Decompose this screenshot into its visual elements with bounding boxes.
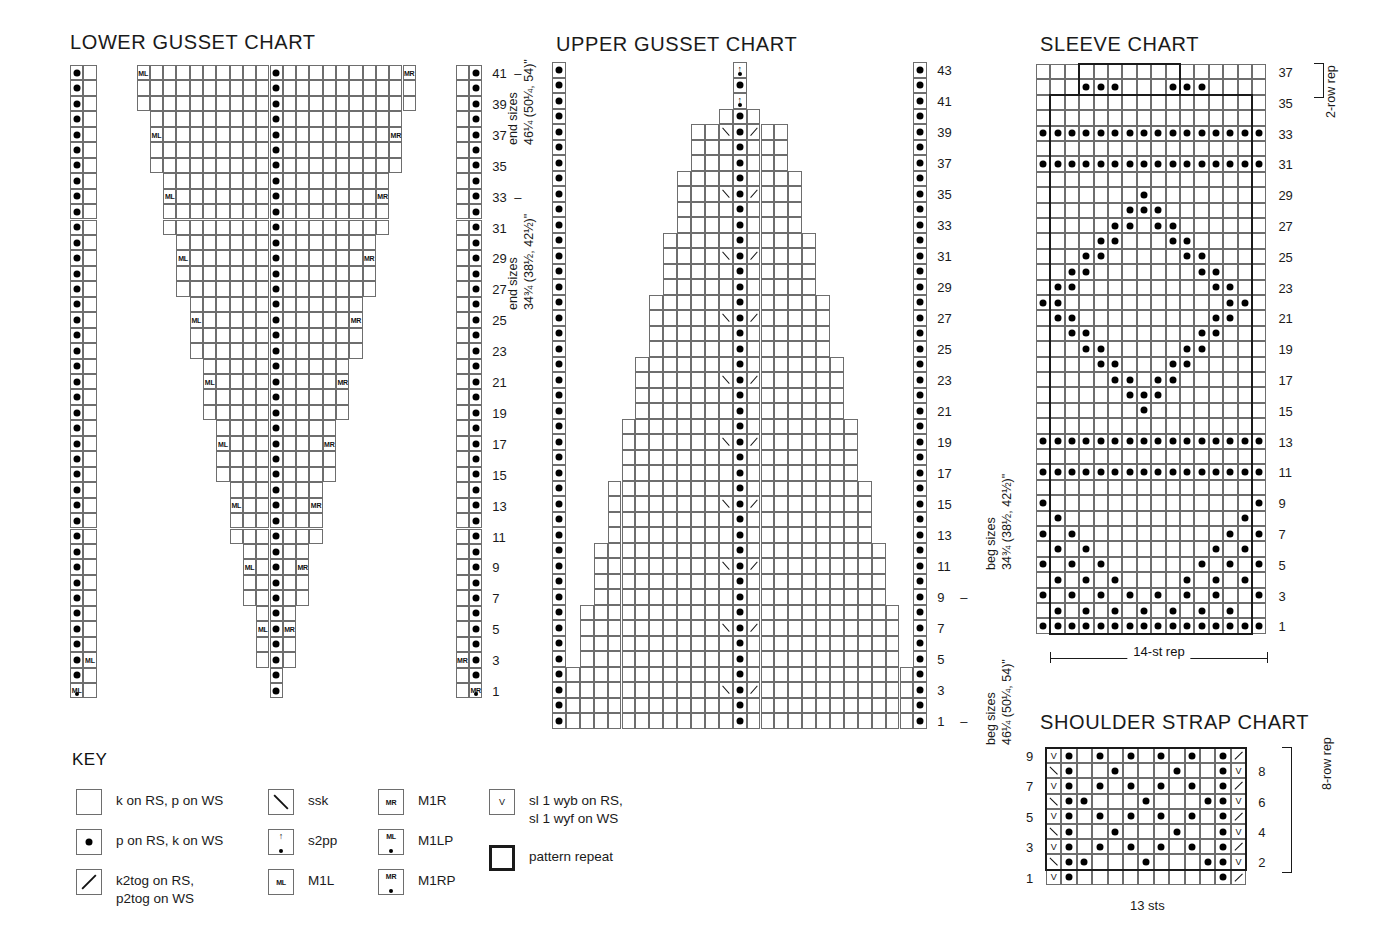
sleeve-cell — [1209, 264, 1223, 279]
s2pp-symbol: ↑ — [279, 832, 284, 841]
purl-dot-icon — [917, 500, 924, 507]
lower-gusset-cell — [296, 96, 309, 111]
upper-gusset-cell — [761, 620, 775, 636]
shoulder-strap-cell — [1215, 839, 1230, 854]
sleeve-cell — [1079, 264, 1093, 279]
upper-gusset-cell — [774, 264, 788, 280]
lower-gusset-cell — [203, 173, 216, 188]
upper-gusset-cell — [733, 450, 747, 466]
lower-gusset-cell — [70, 127, 83, 142]
purl-dot-icon — [1097, 130, 1104, 137]
sleeve-cell — [1108, 126, 1122, 141]
sleeve-cell — [1065, 95, 1079, 110]
upper-gusset-cell — [747, 512, 761, 528]
upper-gusset-cell — [733, 481, 747, 497]
lower-gusset-cell — [456, 544, 469, 559]
purl-dot-icon — [1127, 843, 1134, 850]
lower-gusset-cell — [283, 297, 296, 312]
lower-gusset-cell — [469, 173, 482, 188]
sleeve-cell — [1151, 464, 1165, 479]
shoulder-strap-cell — [1092, 748, 1107, 763]
lower-gusset-m1l-cell: ML — [150, 127, 163, 142]
upper-gusset-cell — [594, 682, 608, 698]
shoulder-strap-ssk-cell — [1046, 763, 1061, 778]
sleeve-cell — [1238, 233, 1252, 248]
lower-gusset-cell — [83, 467, 96, 482]
upper-gusset-cell — [788, 357, 802, 373]
upper-gusset-cell — [844, 450, 858, 466]
upper-gusset-cell — [802, 434, 816, 450]
lower-gusset-cell — [469, 158, 482, 173]
sleeve-cell — [1223, 418, 1237, 433]
sleeve-cell — [1036, 541, 1050, 556]
purl-dot-icon — [1169, 222, 1176, 229]
upper-gusset-row-number: 27 — [937, 311, 951, 326]
lower-gusset-cell — [296, 389, 309, 404]
upper-gusset-cell — [913, 186, 927, 202]
purl-dot-icon — [917, 423, 924, 430]
key-item-purl: p on RS, k on WS — [76, 829, 223, 855]
upper-gusset-cell — [552, 248, 566, 264]
sleeve-cell — [1094, 495, 1108, 510]
lower-gusset-cell — [70, 420, 83, 435]
sleeve-cell — [1238, 79, 1252, 94]
purl-dot-icon — [1155, 130, 1162, 137]
sleeve-cell — [1194, 541, 1208, 556]
upper-gusset-cell — [594, 698, 608, 714]
lower-gusset-cell — [323, 312, 336, 327]
upper-gusset-cell — [719, 217, 733, 233]
sleeve-cell — [1166, 464, 1180, 479]
purl-dot-icon — [1112, 438, 1119, 445]
sleeve-cell — [1122, 156, 1136, 171]
purl-dot-icon — [1068, 161, 1075, 168]
upper-gusset-cell — [844, 481, 858, 497]
lower-gusset-cell — [70, 65, 83, 80]
upper-gusset-cell — [622, 481, 636, 497]
sleeve-cell — [1065, 156, 1079, 171]
lower-gusset-cell — [456, 683, 469, 698]
purl-dot-icon — [1184, 345, 1191, 352]
lower-gusset-row-number: 11 — [492, 530, 506, 545]
lower-gusset-cell — [283, 652, 296, 667]
sleeve-cell — [1137, 295, 1151, 310]
m1l-symbol: ML — [276, 879, 286, 886]
sleeve-cell — [1194, 449, 1208, 464]
upper-gusset-cell — [913, 434, 927, 450]
sleeve-cell — [1122, 64, 1136, 79]
upper-gusset-cell — [761, 248, 775, 264]
upper-gusset-cell — [608, 589, 622, 605]
upper-gusset-row-number: 23 — [937, 373, 951, 388]
sleeve-cell — [1252, 295, 1266, 310]
lower-gusset-cell — [270, 312, 283, 327]
purl-dot-icon — [1112, 84, 1119, 91]
upper-gusset-cell — [733, 636, 747, 652]
purl-dot-icon — [736, 299, 743, 306]
lower-gusset-cell — [176, 65, 189, 80]
sleeve-cell — [1209, 526, 1223, 541]
shoulder-strap-cell — [1169, 854, 1184, 869]
upper-gusset-cell — [691, 186, 705, 202]
key-swatch-blank — [76, 789, 102, 815]
lower-gusset-cell — [243, 235, 256, 250]
purl-dot-icon — [555, 268, 562, 275]
upper-gusset-cell — [761, 419, 775, 435]
lower-gusset-cell — [256, 250, 269, 265]
sleeve-cell — [1238, 172, 1252, 187]
lower-gusset-cell — [456, 297, 469, 312]
upper-gusset-cell — [761, 450, 775, 466]
upper-gusset-cell — [552, 202, 566, 218]
upper-gusset-side-label-2-line1: beg sizes — [984, 692, 998, 745]
upper-gusset-cell — [774, 295, 788, 311]
purl-dot-icon — [1040, 499, 1047, 506]
upper-gusset-cell — [802, 388, 816, 404]
lower-gusset-cell — [469, 328, 482, 343]
purl-dot-icon — [1256, 499, 1263, 506]
purl-dot-icon — [1227, 284, 1234, 291]
upper-gusset-row-number: 43 — [937, 63, 951, 78]
lower-gusset-cell — [323, 96, 336, 111]
lower-gusset-cell — [230, 158, 243, 173]
upper-gusset-cell — [705, 543, 719, 559]
sleeve-cell — [1194, 618, 1208, 633]
upper-gusset-cell — [761, 372, 775, 388]
purl-dot-icon — [1256, 592, 1263, 599]
